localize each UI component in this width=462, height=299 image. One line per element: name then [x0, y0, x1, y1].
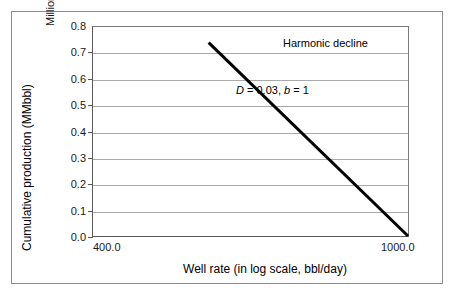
- annotation-decline-parameters: D = 0.03, b = 1: [236, 84, 309, 96]
- y-axis-ticks: 0.8 0.7 0.6 0.5 0.4 0.3 0.2 0.1 0.0: [52, 0, 86, 299]
- chart-figure: Millions Cumulative production (MMbbl) 0…: [0, 0, 462, 299]
- y-tick-mark: [88, 237, 93, 238]
- param-b-value: = 1: [290, 84, 309, 96]
- x-axis-title: Well rate (in log scale, bbl/day): [0, 262, 462, 276]
- y-tick-label: 0.5: [56, 100, 86, 111]
- x-tick-label-min: 400.0: [93, 241, 121, 253]
- y-tick-label: 0.1: [56, 206, 86, 217]
- annotation-harmonic-decline: Harmonic decline: [283, 37, 368, 49]
- y-tick-label: 0.6: [56, 74, 86, 85]
- harmonic-decline-line: [209, 43, 408, 236]
- x-axis-title-text: Well rate (in log scale, bbl/day): [115, 262, 347, 276]
- y-tick-label: 0.7: [56, 47, 86, 58]
- y-tick-label: 0.0: [56, 232, 86, 243]
- y-axis-title: Cumulative production (MMbbl): [20, 84, 34, 251]
- y-tick-label: 0.4: [56, 127, 86, 138]
- y-tick-label: 0.2: [56, 179, 86, 190]
- plot-area: [92, 26, 409, 237]
- x-tick-label-max: 1000.0: [381, 241, 415, 253]
- param-d-value: = 0.03,: [244, 84, 284, 96]
- param-d-symbol: D: [236, 84, 244, 96]
- y-tick-label: 0.8: [56, 21, 86, 32]
- y-tick-label: 0.3: [56, 153, 86, 164]
- series-layer: [93, 27, 408, 236]
